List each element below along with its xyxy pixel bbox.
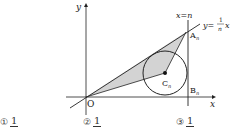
- choice-number: ③: [176, 116, 184, 128]
- svg-text:n: n: [218, 25, 222, 32]
- vertical-line-label: x=n: [176, 11, 192, 20]
- choice-fraction: 1: [10, 116, 18, 137]
- y-axis-arrow-icon: [84, 3, 88, 7]
- point-c-label: C n: [162, 79, 171, 89]
- choice-fraction: 1: [93, 116, 101, 137]
- svg-text:y=: y=: [202, 21, 214, 30]
- y-axis-label: y: [75, 2, 82, 12]
- center-point: [163, 71, 167, 75]
- choice-3[interactable]: ③ 1: [176, 116, 194, 137]
- point-b-label: B n: [190, 86, 199, 96]
- slant-line-label: y= 1 n x: [202, 16, 230, 32]
- choice-1[interactable]: ① 1: [0, 116, 18, 137]
- svg-text:x: x: [225, 21, 230, 30]
- svg-text:n: n: [168, 83, 171, 89]
- svg-text:A: A: [189, 31, 196, 40]
- svg-text:1: 1: [219, 16, 223, 23]
- choice-2[interactable]: ② 1: [83, 116, 101, 137]
- svg-text:n: n: [196, 35, 199, 41]
- origin-label: O: [87, 99, 94, 109]
- choice-number: ①: [0, 116, 8, 128]
- slant-line: [70, 24, 200, 108]
- svg-text:n: n: [196, 90, 199, 96]
- choice-number: ②: [83, 116, 91, 128]
- choice-fraction: 1: [186, 116, 194, 137]
- point-a-label: A n: [189, 31, 199, 41]
- geometry-diagram: y x O x=n y= 1 n x A n B n C n: [0, 0, 230, 140]
- x-axis-label: x: [210, 99, 215, 109]
